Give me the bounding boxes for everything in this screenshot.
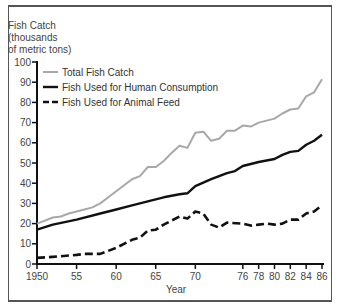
legend-label: Fish Used for Human Consumption bbox=[62, 82, 218, 93]
y-tick-label: 70 bbox=[20, 117, 32, 128]
x-tick-label: 86 bbox=[316, 271, 328, 282]
y-tick-label: 50 bbox=[20, 158, 32, 169]
x-tick-label: 65 bbox=[150, 271, 162, 282]
y-tick-label: 40 bbox=[20, 178, 32, 189]
x-tick-label: 55 bbox=[71, 271, 83, 282]
line-chart: 0102030405060708090100 19505560657076788… bbox=[0, 0, 340, 308]
y-tick-label: 90 bbox=[20, 77, 32, 88]
x-tick-label: 82 bbox=[285, 271, 297, 282]
x-tick-label: 1950 bbox=[26, 271, 49, 282]
y-tick-label: 60 bbox=[20, 137, 32, 148]
y-tick-label: 80 bbox=[20, 97, 32, 108]
series-line bbox=[37, 135, 322, 230]
x-tick-label: 60 bbox=[111, 271, 123, 282]
x-tick-label: 76 bbox=[237, 271, 249, 282]
legend: Total Fish CatchFish Used for Human Cons… bbox=[43, 67, 218, 108]
y-axis: 0102030405060708090100 bbox=[14, 57, 37, 270]
legend-label: Total Fish Catch bbox=[62, 67, 134, 78]
x-tick-label: 80 bbox=[269, 271, 281, 282]
x-axis: 195055606570767880828486 bbox=[26, 264, 328, 282]
x-tick-label: 84 bbox=[301, 271, 313, 282]
legend-label: Fish Used for Animal Feed bbox=[62, 97, 180, 108]
y-tick-label: 10 bbox=[20, 238, 32, 249]
y-tick-label: 100 bbox=[14, 57, 31, 68]
series-line bbox=[37, 205, 322, 258]
y-tick-label: 30 bbox=[20, 198, 32, 209]
x-axis-title: Year bbox=[166, 284, 187, 295]
x-tick-label: 70 bbox=[190, 271, 202, 282]
x-tick-label: 78 bbox=[253, 271, 265, 282]
y-tick-label: 20 bbox=[20, 218, 32, 229]
y-tick-label: 0 bbox=[25, 259, 31, 270]
